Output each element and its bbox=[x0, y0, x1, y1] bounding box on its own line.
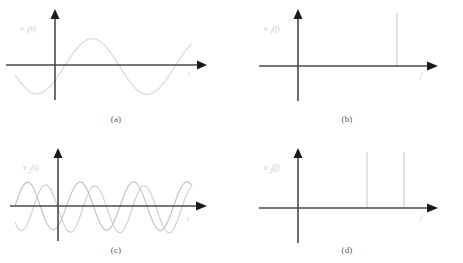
waveform-v1 bbox=[15, 39, 192, 95]
x-axis-arrow-a bbox=[197, 61, 207, 70]
panel-b-sublabel: (b) bbox=[231, 114, 463, 124]
y-axis-label-d: v bbox=[264, 163, 268, 172]
panel-c-sublabel: (c) bbox=[0, 245, 232, 255]
x-axis-label-c: t bbox=[187, 214, 190, 223]
panel-a: v 1 (t) t (a) bbox=[0, 0, 232, 132]
y-axis-arrow-a bbox=[51, 9, 60, 19]
y-axis-arrow-d bbox=[294, 148, 303, 158]
y-axis-label-a: v bbox=[20, 24, 24, 33]
y-axis-arrow-b bbox=[294, 9, 303, 19]
panel-c: v 2 (t) t (c) bbox=[0, 131, 232, 263]
x-axis-label-b: f bbox=[420, 71, 424, 80]
y-axis-label-c: v bbox=[23, 163, 27, 172]
x-axis-arrow-c bbox=[196, 202, 207, 211]
y-axis-label-arg-a: (t) bbox=[28, 24, 36, 33]
panel-b: v 1 (f) f (b) bbox=[231, 0, 463, 132]
y-axis-label-arg-c: (t) bbox=[31, 163, 39, 172]
figure-root: v 1 (t) t (a) v 1 (f) f (b) bbox=[0, 0, 463, 263]
y-axis-label-arg-d: (f) bbox=[272, 163, 280, 172]
x-axis-label-a: t bbox=[188, 69, 191, 78]
x-axis-arrow-d bbox=[427, 204, 438, 213]
panel-d: v 2 (f) f (d) bbox=[231, 131, 463, 263]
panel-d-plot: v 2 (f) f bbox=[231, 131, 463, 263]
y-axis-label-arg-b: (f) bbox=[272, 24, 280, 33]
panel-b-plot: v 1 (f) f bbox=[231, 0, 463, 132]
panel-a-plot: v 1 (t) t bbox=[0, 0, 232, 132]
panel-d-sublabel: (d) bbox=[231, 245, 463, 255]
x-axis-label-d: f bbox=[420, 213, 424, 222]
panel-c-plot: v 2 (t) t bbox=[0, 131, 232, 263]
panel-a-sublabel: (a) bbox=[0, 114, 232, 124]
y-axis-arrow-c bbox=[54, 148, 63, 158]
x-axis-arrow-b bbox=[427, 62, 438, 71]
y-axis-label-b: v bbox=[264, 24, 268, 33]
